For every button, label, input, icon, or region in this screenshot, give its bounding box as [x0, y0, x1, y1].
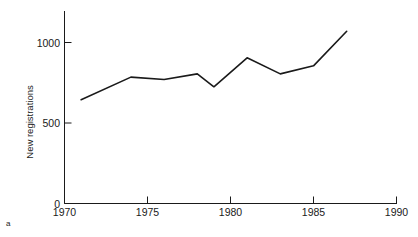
x-tick-label-1985: 1985 [302, 206, 326, 218]
data-series-line [81, 31, 347, 99]
y-axis-title: New registrations [24, 85, 35, 159]
y-tick-label-1000: 1000 [37, 37, 61, 49]
x-tick-label-1980: 1980 [219, 206, 243, 218]
x-tick-label-1975: 1975 [136, 206, 160, 218]
panel-label: a [6, 219, 10, 229]
x-tick-label-1990: 1990 [385, 206, 409, 218]
y-tick-label-500: 500 [42, 117, 60, 129]
line-chart: 1000 500 0 1970 1975 1980 1985 1990 New … [0, 0, 418, 237]
x-tick-label-1970: 1970 [53, 206, 77, 218]
figure-panel-a: 1000 500 0 1970 1975 1980 1985 1990 New … [0, 0, 418, 237]
y-axis-ticks [65, 43, 72, 204]
x-axis-ticks [65, 197, 397, 204]
